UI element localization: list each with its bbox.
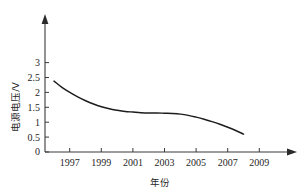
y-tick-label: 0.5 — [28, 132, 41, 143]
y-tick-label: 3 — [35, 57, 40, 68]
line-chart: 0 0.5 1 1.5 2 2.5 3 1997 1999 2001 2003 … — [0, 0, 308, 193]
x-tick-label: 2003 — [155, 157, 175, 168]
x-tick-label: 1999 — [91, 157, 111, 168]
y-axis-title: 电源电压/V — [10, 82, 21, 132]
x-tick-label: 2005 — [186, 157, 206, 168]
y-tick-label: 2.5 — [28, 72, 41, 83]
chart-figure: 0 0.5 1 1.5 2 2.5 3 1997 1999 2001 2003 … — [0, 0, 308, 193]
y-tick-label: 0 — [35, 146, 40, 157]
x-tick-label: 1997 — [60, 157, 80, 168]
x-tick-label: 2009 — [249, 157, 269, 168]
data-series-line — [54, 81, 244, 134]
y-tick-label: 1 — [35, 117, 40, 128]
y-tick-marks — [45, 63, 49, 152]
y-tick-label: 2 — [35, 87, 40, 98]
x-tick-label: 2001 — [123, 157, 143, 168]
x-tick-label: 2007 — [218, 157, 238, 168]
y-tick-label: 1.5 — [28, 102, 41, 113]
arrow-right-icon — [287, 149, 297, 156]
x-tick-marks — [70, 148, 260, 152]
x-axis-title: 年份 — [150, 177, 170, 188]
arrow-up-icon — [42, 14, 49, 24]
